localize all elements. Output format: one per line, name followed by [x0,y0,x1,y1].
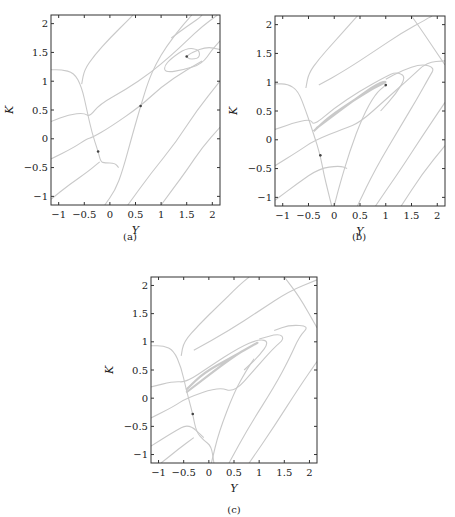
trajectories [151,277,317,463]
x-tick-label: 2 [306,467,312,478]
x-tick-label: 0 [107,209,113,220]
y-tick-label: 0 [42,133,48,144]
trajectory-traj-right1 [249,362,317,464]
y-tick-label: 1.5 [132,308,148,319]
x-tick-label: 2 [209,209,215,220]
x-tick-label: 2 [434,210,440,221]
trajectory-traj-mid2 [275,61,445,166]
trajectory-traj-top [181,277,249,356]
equilibrium-dot [384,84,387,87]
equilibrium-dot [191,413,194,416]
x-tick-label: 0.5 [226,467,242,478]
x-axis-label: Y [230,482,239,495]
x-tick-label: 1 [256,467,262,478]
y-tick-label: −0.5 [24,162,48,173]
panel-c: −1−1−0.5−0.5000.50.5111.51.522YK (c) [110,262,345,517]
trajectory-traj-mid2 [51,61,202,159]
x-tick-label: 0.5 [128,209,144,220]
y-axis-label: K [227,106,240,116]
plot-frame [151,277,317,463]
x-tick-label: −1 [51,209,66,220]
caption-c: (c) [214,504,254,515]
trajectory-traj-right2 [161,127,220,205]
y-tick-label: −1 [133,449,148,460]
x-tick-label: −1 [275,210,290,221]
trajectory-separatrix-left [51,70,119,168]
x-tick-label: 1.5 [404,210,420,221]
trajectory-traj-low2 [161,438,194,463]
caption-a: (a) [110,231,150,242]
trajectories [51,15,220,205]
x-tick-label: 0 [331,210,337,221]
y-tick-label: −1 [33,191,48,202]
y-tick-label: 2 [142,280,148,291]
y-tick-label: 1.5 [32,47,48,58]
plot-b: −1−1−0.5−0.5000.50.5111.51.522YK [228,0,455,250]
x-tick-label: −0.5 [296,210,320,221]
trajectory-separatrix-left [275,84,332,206]
trajectory-cusp-bundle [314,82,386,131]
panel-a: −1−1−0.5−0.5000.50.5111.51.522YK (a) [0,0,228,250]
trajectory-traj-top [82,15,133,84]
y-tick-label: −0.5 [124,421,148,432]
x-tick-label: 1 [158,209,164,220]
y-tick-label: 2 [42,18,48,29]
trajectory-traj-low [51,162,100,199]
y-tick-label: 0 [142,393,148,404]
x-tick-label: 1.5 [179,209,195,220]
trajectory-traj-low [275,166,347,200]
x-tick-label: 0 [206,467,212,478]
y-tick-label: 1 [266,77,272,88]
trajectory-traj-top2 [319,16,432,85]
x-tick-label: −0.5 [172,467,196,478]
y-tick-label: 0.5 [256,106,272,117]
trajectory-traj-right1 [376,102,446,206]
trajectory-traj-right2 [284,277,317,328]
trajectories [275,16,445,206]
trajectory-traj-mid1 [51,15,217,122]
plot-frame [51,15,220,205]
y-axis-label: K [103,365,116,375]
equilibrium-dot [97,150,100,153]
x-tick-label: −1 [151,467,166,478]
panel-b: −1−1−0.5−0.5000.50.5111.51.522YK (b) [228,0,455,250]
trajectory-traj-right2 [401,146,445,207]
plot-c: −1−1−0.5−0.5000.50.5111.51.522YK [110,262,345,517]
equilibrium-dot [319,154,322,157]
plot-a: −1−1−0.5−0.5000.50.5111.51.522YK [0,0,228,250]
x-tick-label: 1 [383,210,389,221]
y-tick-label: 1 [42,76,48,87]
equilibrium-dot [185,55,188,58]
trajectory-traj-right3 [412,16,446,65]
y-tick-label: 1 [142,336,148,347]
equilibrium-dot [139,105,142,108]
caption-b: (b) [339,231,379,242]
y-axis-label: K [3,105,16,115]
x-tick-label: 1.5 [276,467,292,478]
trajectory-separatrix-left [151,346,214,463]
trajectory-traj-topright [171,15,202,38]
trajectory-traj-top [306,16,358,88]
y-tick-label: 0.5 [32,105,48,116]
y-tick-label: −0.5 [248,163,272,174]
x-tick-label: 0.5 [352,210,368,221]
trajectory-spiral [165,41,220,72]
trajectory-separatrix-center [211,359,254,463]
y-tick-label: 2 [266,19,272,30]
x-tick-label: −0.5 [72,209,96,220]
y-tick-label: 0 [266,134,272,145]
y-tick-label: 0.5 [132,365,148,376]
y-tick-label: −1 [257,192,272,203]
y-tick-label: 1.5 [256,48,272,59]
